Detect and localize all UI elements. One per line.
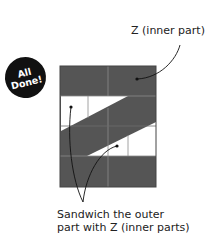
z-block-diagram [0,0,215,237]
instruction-line2: part with Z (inner parts) [57,221,190,234]
instruction-line1: Sandwich the outer [57,208,190,221]
sandwich-instruction-label: Sandwich the outer part with Z (inner pa… [57,208,190,234]
